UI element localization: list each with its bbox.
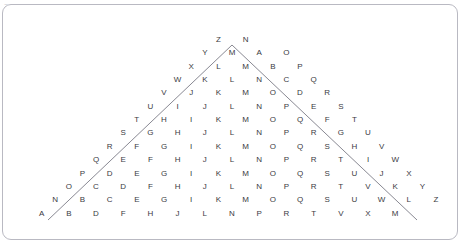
grid-letter: F <box>130 143 144 151</box>
grid-letter: S <box>334 103 348 111</box>
grid-letter: B <box>62 210 76 218</box>
grid-letter: Q <box>293 170 307 178</box>
grid-letter: V <box>361 183 375 191</box>
grid-letter: V <box>375 143 389 151</box>
grid-letter: O <box>279 49 293 57</box>
grid-letter: N <box>239 36 253 44</box>
grid-letter: L <box>225 129 239 137</box>
grid-letter: L <box>225 156 239 164</box>
grid-letter: N <box>252 103 266 111</box>
grid-letter: U <box>361 129 375 137</box>
grid-letter: R <box>320 89 334 97</box>
grid-letter: M <box>239 143 253 151</box>
grid-letter: L <box>225 103 239 111</box>
grid-letter: O <box>266 143 280 151</box>
grid-letter: A <box>252 49 266 57</box>
grid-letter: R <box>307 156 321 164</box>
letter-grid: ZNYMAOXLMBPWKLNCQVJKMODRUIJLNPESTHIKMOQF… <box>0 0 462 247</box>
grid-letter: Q <box>89 156 103 164</box>
grid-letter: P <box>279 103 293 111</box>
grid-letter: D <box>103 170 117 178</box>
grid-letter: Q <box>307 76 321 84</box>
grid-letter: M <box>239 89 253 97</box>
grid-letter: T <box>130 116 144 124</box>
grid-letter: Q <box>293 196 307 204</box>
grid-letter: E <box>116 156 130 164</box>
grid-letter: Y <box>198 49 212 57</box>
grid-letter: N <box>48 196 62 204</box>
grid-letter: E <box>130 170 144 178</box>
grid-letter: T <box>347 116 361 124</box>
grid-letter: J <box>171 210 185 218</box>
grid-letter: R <box>103 143 117 151</box>
grid-letter: A <box>35 210 49 218</box>
grid-letter: O <box>62 183 76 191</box>
grid-letter: P <box>279 156 293 164</box>
grid-letter: O <box>266 170 280 178</box>
grid-letter: J <box>198 156 212 164</box>
grid-letter: C <box>89 183 103 191</box>
grid-letter: L <box>225 76 239 84</box>
grid-letter: U <box>347 170 361 178</box>
grid-letter: Q <box>293 116 307 124</box>
grid-letter: V <box>157 89 171 97</box>
grid-letter: S <box>320 170 334 178</box>
grid-letter: F <box>320 116 334 124</box>
grid-letter: M <box>239 116 253 124</box>
grid-letter: K <box>211 170 225 178</box>
grid-letter: K <box>211 143 225 151</box>
grid-letter: I <box>184 143 198 151</box>
grid-letter: M <box>239 196 253 204</box>
grid-letter: E <box>307 103 321 111</box>
grid-letter: R <box>307 129 321 137</box>
grid-letter: X <box>184 63 198 71</box>
grid-letter: F <box>143 156 157 164</box>
grid-letter: C <box>279 76 293 84</box>
grid-letter: O <box>266 116 280 124</box>
grid-letter: M <box>388 210 402 218</box>
grid-letter: R <box>307 183 321 191</box>
grid-letter: L <box>402 196 416 204</box>
grid-letter: G <box>157 143 171 151</box>
grid-letter: N <box>252 76 266 84</box>
grid-letter: M <box>239 63 253 71</box>
grid-letter: J <box>184 89 198 97</box>
grid-letter: O <box>266 89 280 97</box>
grid-letter: M <box>225 49 239 57</box>
grid-letter: I <box>184 170 198 178</box>
grid-letter: D <box>116 183 130 191</box>
grid-letter: P <box>279 129 293 137</box>
grid-letter: I <box>184 116 198 124</box>
grid-letter: F <box>116 210 130 218</box>
grid-letter: I <box>171 103 185 111</box>
grid-letter: I <box>184 196 198 204</box>
grid-letter: U <box>143 103 157 111</box>
grid-letter: G <box>157 196 171 204</box>
grid-letter: G <box>334 129 348 137</box>
grid-letter: F <box>143 183 157 191</box>
grid-letter: Q <box>293 143 307 151</box>
grid-letter: W <box>388 156 402 164</box>
grid-letter: P <box>279 183 293 191</box>
grid-letter: P <box>252 210 266 218</box>
grid-letter: G <box>143 129 157 137</box>
grid-letter: M <box>239 170 253 178</box>
grid-letter: S <box>320 196 334 204</box>
grid-letter: L <box>225 183 239 191</box>
grid-letter: T <box>307 210 321 218</box>
grid-letter: E <box>130 196 144 204</box>
grid-letter: G <box>157 170 171 178</box>
grid-letter: W <box>375 196 389 204</box>
grid-letter: I <box>361 156 375 164</box>
grid-letter: H <box>171 129 185 137</box>
grid-letter: Z <box>429 196 443 204</box>
grid-letter: K <box>388 183 402 191</box>
grid-letter: X <box>361 210 375 218</box>
grid-letter: R <box>279 210 293 218</box>
grid-letter: J <box>375 170 389 178</box>
grid-letter: T <box>334 156 348 164</box>
grid-letter: T <box>334 183 348 191</box>
grid-letter: U <box>347 196 361 204</box>
grid-letter: H <box>171 183 185 191</box>
grid-letter: H <box>347 143 361 151</box>
